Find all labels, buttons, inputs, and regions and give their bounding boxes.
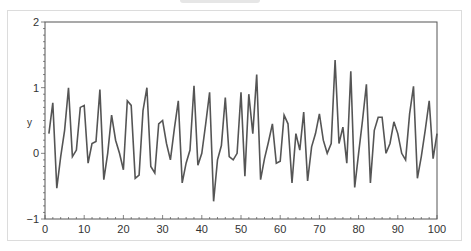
x-tick-label: 30	[156, 223, 168, 235]
x-tick-label: 40	[196, 223, 208, 235]
y-tick-label: 1	[33, 82, 39, 94]
y-tick-label: −1	[26, 213, 39, 225]
y-axis-label: y	[27, 117, 32, 128]
x-tick-label: 60	[274, 223, 286, 235]
x-tick-label: 70	[313, 223, 325, 235]
x-tick-label: 80	[352, 223, 364, 235]
x-tick-label: 90	[392, 223, 404, 235]
y-tick-label: 2	[33, 16, 39, 28]
x-tick-label: 100	[428, 223, 446, 235]
y-tick-label: 0	[33, 147, 39, 159]
line-chart: −1012 0102030405060708090100 y	[0, 0, 471, 251]
plot-area	[45, 22, 437, 219]
x-tick-label: 50	[235, 223, 247, 235]
x-tick-label: 20	[117, 223, 129, 235]
data-line	[49, 60, 437, 201]
x-tick-label: 0	[42, 223, 48, 235]
x-axis-ticks: 0102030405060708090100	[42, 215, 446, 235]
x-tick-label: 10	[78, 223, 90, 235]
